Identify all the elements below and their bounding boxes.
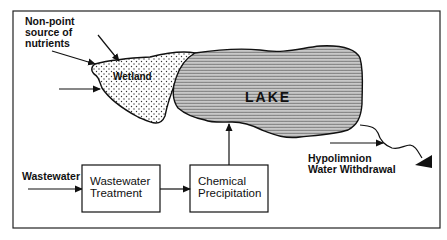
nonpoint-arrow-2 <box>98 35 119 61</box>
box-label-line: Wastewater <box>90 175 150 187</box>
wastewater-input-label: Wastewater <box>22 171 80 182</box>
lake-label: LAKE <box>245 90 291 105</box>
nonpoint-arrow-1 <box>52 51 95 64</box>
outflow-arrowhead-icon <box>415 155 432 168</box>
chemical-precipitation-label: Chemical Precipitation <box>198 175 261 199</box>
box-label-line: Treatment <box>90 187 150 199</box>
hypolimnion-label-line: Water Withdrawal <box>308 164 396 175</box>
hypolimnion-label: Hypolimnion Water Withdrawal <box>308 153 396 175</box>
wetland-label: Wetland <box>113 72 152 83</box>
wastewater-treatment-label: Wastewater Treatment <box>90 175 150 199</box>
box-label-line: Precipitation <box>198 187 261 199</box>
box-label-line: Chemical <box>198 175 261 187</box>
nonpoint-label-line: nutrients <box>25 38 75 49</box>
nonpoint-label: Non-point source of nutrients <box>25 16 75 49</box>
